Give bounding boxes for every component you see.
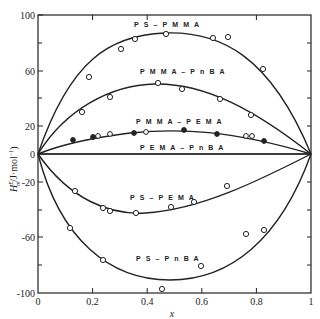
curve-ps-pema [38,154,311,213]
svg-text:HEm/J·mol−1): HEm/J·mol−1) [8,146,21,193]
x-tick-0.4: 0.4 [141,296,154,307]
y-tick-20: 20 [25,121,35,132]
y-tick-neg20: -20 [22,177,35,188]
excess-enthalpy-chart: 100 60 20 0 -20 -60 -100 0 0.2 0.4 0.6 0… [0,0,320,319]
y-tick-100: 100 [20,10,35,21]
x-tick-labels: 0 0.2 0.4 0.6 0.8 1 [36,296,314,307]
x-axis-label: x [169,308,175,319]
y-tick-neg100: -100 [17,288,35,299]
y-axis-label: HEm/J·mol−1) [8,146,21,193]
x-tick-1: 1 [309,296,314,307]
label-ps-pnba: P S – P n B A [136,255,200,262]
label-ps-pmma: P S – P M M A [134,21,201,28]
label-pmma-pema: P M M A – P E M A [136,118,223,125]
y-tick-60: 60 [25,66,35,77]
x-tick-0.8: 0.8 [250,296,263,307]
x-tick-0.6: 0.6 [196,296,209,307]
curve-ps-pmma [38,33,311,154]
label-pmma-pnba: P M M A – P n B A [140,68,226,75]
label-pema-pnba: P E M A – P n B A [140,144,225,151]
label-ps-pema: P S – P E M A [130,194,195,201]
y-tick-0: 0 [30,149,35,160]
markers-pmma-pnba [79,80,253,117]
x-tick-0.2: 0.2 [86,296,99,307]
y-tick-labels: 100 60 20 0 -20 -60 -100 [17,10,35,299]
x-tick-0: 0 [36,296,41,307]
y-ticks [38,15,311,265]
y-tick-neg60: -60 [22,232,35,243]
